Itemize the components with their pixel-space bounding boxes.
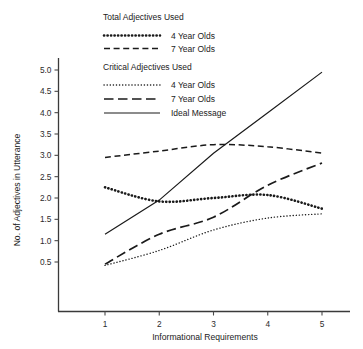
y-tick-label: 4.0 [40, 108, 52, 118]
y-tick-label: 1.0 [40, 236, 52, 246]
y-tick-label: 3.5 [40, 129, 52, 139]
legend-label-total-4yo: 4 Year Olds [171, 31, 215, 41]
legend-label-total-7yo: 7 Year Olds [171, 44, 215, 54]
chart-figure: 0.51.01.52.02.53.03.54.04.55.0 12345 Inf… [0, 0, 363, 349]
y-tick-label: 5.0 [40, 65, 52, 75]
y-tick-label: 0.5 [40, 257, 52, 267]
y-tick-label: 2.5 [40, 172, 52, 182]
series-line-1 [105, 144, 322, 157]
y-tick-label: 1.5 [40, 214, 52, 224]
x-tick-label: 5 [320, 319, 325, 329]
y-axis-ticks: 0.51.01.52.02.53.03.54.04.55.0 [40, 65, 59, 267]
x-tick-label: 4 [265, 319, 270, 329]
y-tick-label: 3.0 [40, 150, 52, 160]
y-tick-label: 2.0 [40, 193, 52, 203]
x-axis-title: Informational Requirements [152, 332, 258, 342]
legend-heading-total: Total Adjectives Used [103, 12, 184, 22]
y-axis-title: No. of Adjectives in Utterance [12, 133, 22, 246]
chart-legend: Total Adjectives Used 4 Year Olds 7 Year… [103, 12, 227, 118]
x-axis-ticks: 12345 [103, 312, 325, 329]
line-chart-plot: 0.51.01.52.02.53.03.54.04.55.0 12345 Inf… [0, 0, 363, 349]
legend-label-critical-4yo: 4 Year Olds [171, 80, 215, 90]
x-tick-label: 1 [103, 319, 108, 329]
x-tick-label: 3 [211, 319, 216, 329]
legend-label-critical-7yo: 7 Year Olds [171, 94, 215, 104]
series-line-2 [105, 214, 322, 266]
series-line-0 [105, 187, 322, 208]
y-tick-label: 4.5 [40, 86, 52, 96]
x-tick-label: 2 [157, 319, 162, 329]
legend-heading-critical: Critical Adjectives Used [103, 62, 192, 72]
legend-label-ideal-message: Ideal Message [171, 108, 227, 118]
